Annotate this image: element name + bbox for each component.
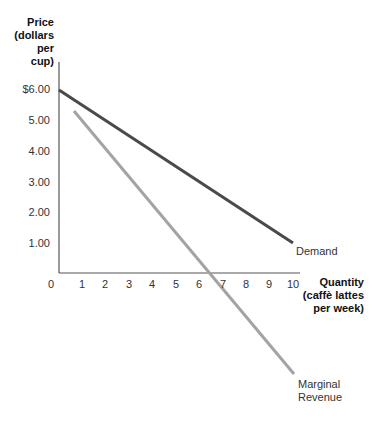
y-tick-label: 4.00 xyxy=(0,145,50,157)
y-axis-title-line: Price xyxy=(14,16,54,29)
x-tick-label: 8 xyxy=(236,278,256,290)
x-tick-label: 6 xyxy=(189,278,209,290)
x-axis-title-line: Quantity xyxy=(303,276,364,289)
x-tick-label: 1 xyxy=(72,278,92,290)
x-tick-label: 2 xyxy=(95,278,115,290)
chart-plot-area xyxy=(0,0,388,428)
x-tick-label: 0 xyxy=(41,278,61,290)
x-axis-title-line: per week) xyxy=(303,302,364,315)
y-tick-label: $6.00 xyxy=(0,83,50,95)
x-axis-title: Quantity (caffè lattes per week) xyxy=(303,276,364,315)
x-tick-label: 10 xyxy=(283,278,303,290)
x-tick-label: 9 xyxy=(259,278,279,290)
demand-line xyxy=(59,90,293,243)
y-axis-title-line: (dollars xyxy=(14,29,54,42)
y-axis-title-line: per xyxy=(14,42,54,55)
y-tick-label: 1.00 xyxy=(0,237,50,249)
y-tick-label: 2.00 xyxy=(0,206,50,218)
marginal-revenue-label-line: Marginal xyxy=(298,378,342,391)
x-tick-label: 4 xyxy=(142,278,162,290)
y-tick-label: 3.00 xyxy=(0,176,50,188)
marginal-revenue-label-line: Revenue xyxy=(298,391,342,404)
marginal-revenue-label: Marginal Revenue xyxy=(298,378,342,404)
y-axis-title-line: cup) xyxy=(14,55,54,68)
x-axis-title-line: (caffè lattes xyxy=(303,289,364,302)
x-tick-label: 5 xyxy=(166,278,186,290)
marginal-revenue-line xyxy=(74,111,294,374)
x-tick-label: 7 xyxy=(213,278,233,290)
y-axis-title: Price (dollars per cup) xyxy=(14,16,54,68)
y-tick-label: 5.00 xyxy=(0,114,50,126)
x-tick-label: 3 xyxy=(119,278,139,290)
demand-label: Demand xyxy=(296,245,338,258)
